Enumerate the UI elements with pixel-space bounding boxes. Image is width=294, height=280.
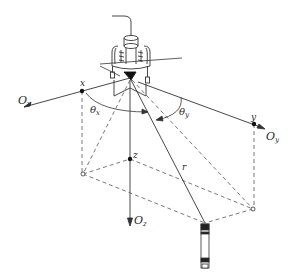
diagram-root: x y z r Ox Oy Oz θx θy — [0, 0, 294, 280]
axis-oy — [138, 82, 265, 129]
label-axis-ox: Ox — [18, 94, 31, 108]
label-point-x: x — [80, 78, 85, 88]
label-axis-oz: Oz — [134, 214, 147, 228]
label-theta-y: θy — [179, 106, 190, 119]
point-z — [128, 157, 132, 161]
angle-arc-theta-y — [156, 97, 181, 121]
label-theta-x: θx — [90, 104, 100, 117]
label-point-y: y — [250, 112, 257, 122]
point-x — [80, 89, 84, 93]
axis-oz — [128, 80, 133, 226]
corner-left — [81, 172, 85, 176]
vector-r — [131, 80, 205, 223]
label-vector-r: r — [182, 162, 187, 172]
corner-right — [251, 207, 255, 211]
point-y — [252, 122, 256, 126]
label-point-z: z — [132, 150, 138, 160]
probe-icon — [201, 224, 209, 268]
label-axis-oy: Oy — [266, 130, 280, 144]
